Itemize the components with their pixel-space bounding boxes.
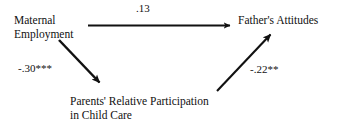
- arrow-maternal-employment-to-parents-participation: [59, 40, 100, 83]
- node-fathers-attitudes: Father's Attitudes: [238, 13, 318, 27]
- node-parents-relative-participation: Parents' Relative Participation in Child…: [70, 94, 209, 122]
- node-fathers-attitudes-line-1: Father's Attitudes: [238, 13, 318, 27]
- path-diagram: Maternal Employment Father's Attitudes P…: [0, 0, 341, 129]
- node-parents-relative-participation-line-2: in Child Care: [70, 108, 209, 122]
- node-maternal-employment: Maternal Employment: [14, 13, 73, 41]
- node-parents-relative-participation-line-1: Parents' Relative Participation: [70, 94, 209, 108]
- edge-label-parents-participation-to-fathers-attitudes: -.22**: [250, 63, 278, 75]
- node-maternal-employment-line-2: Employment: [14, 27, 73, 41]
- edge-label-maternal-employment-to-parents-participation: -.30***: [18, 62, 52, 74]
- edge-label-maternal-employment-to-fathers-attitudes: .13: [136, 2, 150, 14]
- node-maternal-employment-line-1: Maternal: [14, 13, 73, 27]
